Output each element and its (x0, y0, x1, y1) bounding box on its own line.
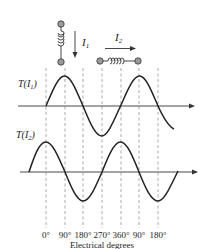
vertical-coil-i1 (58, 21, 64, 65)
svg-text:0°: 0° (42, 230, 51, 240)
label-t-i1: T(I1) (18, 78, 37, 90)
waveform-t-i2 (29, 142, 178, 201)
svg-text:90°: 90° (133, 230, 146, 240)
axis-t-i1 (18, 104, 195, 109)
current-arrow-i2 (105, 46, 136, 51)
tick-labels: 0° 90° 180° 270° 360° 90° 180° (42, 230, 167, 240)
label-i2: I2 (114, 31, 123, 45)
svg-text:360°: 360° (112, 230, 130, 240)
axis-t-i2 (20, 170, 198, 175)
torque-waveform-diagram: I1 I2 T(I1) T(I2) 0° 90° 180° 270° 360° … (0, 0, 204, 249)
x-axis-label: Electrical degrees (70, 240, 135, 249)
label-t-i2: T(I2) (16, 129, 35, 141)
label-i1: I1 (81, 36, 89, 50)
svg-text:90°: 90° (59, 230, 72, 240)
svg-text:180°: 180° (149, 230, 167, 240)
horizontal-coil-i2 (97, 58, 141, 64)
degree-guide-lines (46, 68, 158, 228)
svg-text:270°: 270° (93, 230, 111, 240)
svg-text:180°: 180° (74, 230, 92, 240)
current-arrow-i1 (73, 31, 78, 58)
